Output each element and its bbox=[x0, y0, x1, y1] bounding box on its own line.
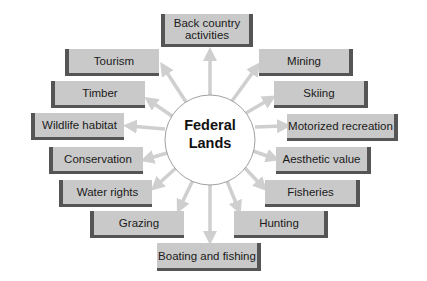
node-mining: Mining bbox=[259, 49, 353, 73]
arrow-wildlife bbox=[130, 126, 165, 129]
node-back-country: Back country activities bbox=[161, 14, 253, 44]
arrow-fisheries bbox=[243, 166, 262, 186]
arrow-mining bbox=[232, 68, 256, 101]
node-fisheries: Fisheries bbox=[265, 180, 360, 204]
arrow-timber bbox=[150, 101, 172, 116]
node-aesthetic-value: Aesthetic value bbox=[276, 147, 371, 171]
center-label: Federal Lands bbox=[165, 116, 255, 152]
node-grazing: Grazing bbox=[90, 211, 184, 235]
arrow-grazing bbox=[180, 180, 193, 207]
node-conservation: Conservation bbox=[49, 147, 143, 171]
arrow-conservation bbox=[147, 153, 167, 159]
node-wildlife-habitat: Wildlife habitat bbox=[31, 113, 124, 137]
arrow-tourism bbox=[164, 68, 186, 102]
node-hunting: Hunting bbox=[234, 211, 328, 235]
node-timber: Timber bbox=[51, 81, 145, 105]
arrow-skiing bbox=[246, 99, 270, 113]
arrow-motorized bbox=[255, 126, 284, 127]
node-tourism: Tourism bbox=[65, 49, 159, 73]
node-skiing: Skiing bbox=[274, 81, 368, 105]
node-motorized-recreation: Motorized recreation bbox=[287, 114, 398, 138]
arrow-hunting bbox=[227, 181, 238, 208]
node-water-rights: Water rights bbox=[59, 180, 152, 204]
node-boating-fishing: Boating and fishing bbox=[157, 243, 261, 268]
arrow-aesthetic bbox=[253, 151, 273, 158]
arrow-water-rights bbox=[156, 168, 176, 186]
